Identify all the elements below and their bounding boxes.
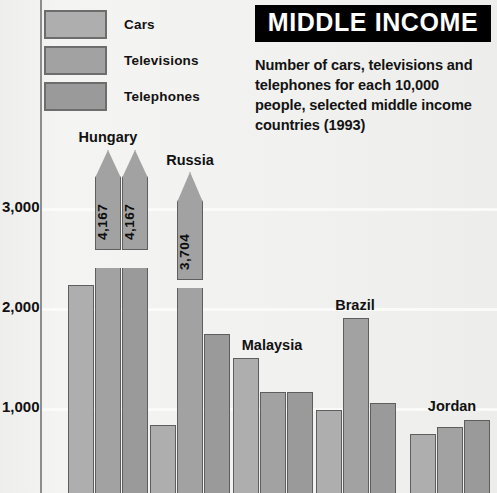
bar-malaysia-tv	[260, 392, 286, 493]
y-tick-label-1000: 1,000	[2, 398, 38, 415]
bar-brazil-cars	[316, 410, 342, 493]
chart-title: MIDDLE INCOME	[255, 5, 491, 42]
bar-value-label-hungary-phones: 4,167	[122, 200, 148, 244]
country-label-russia: Russia	[166, 152, 214, 168]
bar-brazil-tv	[343, 318, 369, 493]
bar-hungary-tv-arrow-top: 4,167	[95, 150, 121, 250]
bar-jordan-tv	[437, 427, 463, 493]
legend-label-telephones: Telephones	[124, 89, 200, 104]
bar-malaysia-phones	[287, 392, 313, 493]
legend-item-cars: Cars	[44, 6, 244, 42]
bar-russia-phones	[204, 334, 230, 493]
legend-label-cars: Cars	[124, 17, 155, 32]
chart-subtitle: Number of cars, televisions and telephon…	[255, 55, 491, 136]
country-label-brazil: Brazil	[335, 297, 375, 313]
country-label-jordan: Jordan	[428, 398, 476, 414]
legend-swatch-telephones	[44, 82, 107, 111]
bar-hungary-phones	[122, 268, 148, 493]
title-block: MIDDLE INCOME Number of cars, television…	[255, 5, 491, 136]
bar-hungary-phones-arrow-top: 4,167	[122, 150, 148, 250]
bar-value-label-russia-tv: 3,704	[177, 230, 203, 274]
bar-hungary-tv	[95, 268, 121, 493]
y-tick-label-3000: 3,000	[2, 198, 38, 215]
y-tick-label-2000: 2,000	[2, 298, 38, 315]
bar-russia-tv	[177, 288, 203, 493]
chart-page: 3,0002,0001,000 4,1674,1673,704 HungaryR…	[0, 0, 497, 493]
chart-legend: Cars Televisions Telephones	[44, 6, 244, 114]
bar-jordan-phones	[464, 420, 490, 493]
bar-russia-cars	[150, 425, 176, 493]
legend-item-telephones: Telephones	[44, 78, 244, 114]
legend-label-televisions: Televisions	[124, 53, 199, 68]
country-label-malaysia: Malaysia	[242, 337, 302, 353]
legend-item-televisions: Televisions	[44, 42, 244, 78]
y-axis-line	[40, 0, 42, 493]
bar-brazil-phones	[370, 403, 396, 493]
bar-russia-tv-arrow-top: 3,704	[177, 172, 203, 280]
country-label-hungary: Hungary	[79, 129, 138, 145]
bar-value-label-hungary-tv: 4,167	[95, 200, 121, 244]
bar-malaysia-cars	[233, 358, 259, 493]
legend-swatch-cars	[44, 10, 107, 39]
bar-hungary-cars	[68, 285, 94, 493]
bar-jordan-cars	[410, 434, 436, 493]
legend-swatch-televisions	[44, 46, 107, 75]
